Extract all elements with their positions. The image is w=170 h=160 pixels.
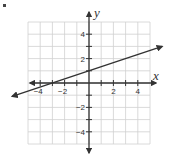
y-axis-label: y <box>92 5 100 20</box>
y-tick-label: −4 <box>76 128 86 137</box>
x-tick-label: 2 <box>111 87 116 96</box>
x-tick-label: −2 <box>58 87 68 96</box>
x-tick-label: 4 <box>136 87 141 96</box>
y-tick-label: 2 <box>81 55 86 64</box>
y-tick-label: −2 <box>76 103 86 112</box>
x-axis-label: x <box>152 68 159 83</box>
coordinate-plane-chart: −4−22442−2−4 x y <box>0 0 170 160</box>
y-tick-label: 4 <box>81 30 86 39</box>
